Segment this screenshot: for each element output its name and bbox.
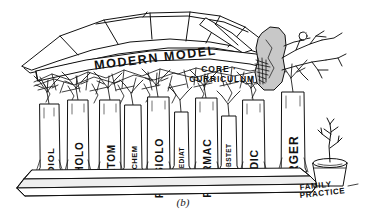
illustration-modern-model-curriculum: MODERN MODEL (0, 0, 366, 221)
figure-canvas: MODERN MODEL (0, 0, 366, 221)
figure-caption: (b) (0, 196, 366, 208)
core-curriculum-line1: CORE · (201, 64, 237, 74)
core-curriculum-line2: CURRICULUM (189, 74, 255, 84)
escaping-tree-blob (255, 27, 286, 90)
plinth-base (17, 168, 318, 196)
